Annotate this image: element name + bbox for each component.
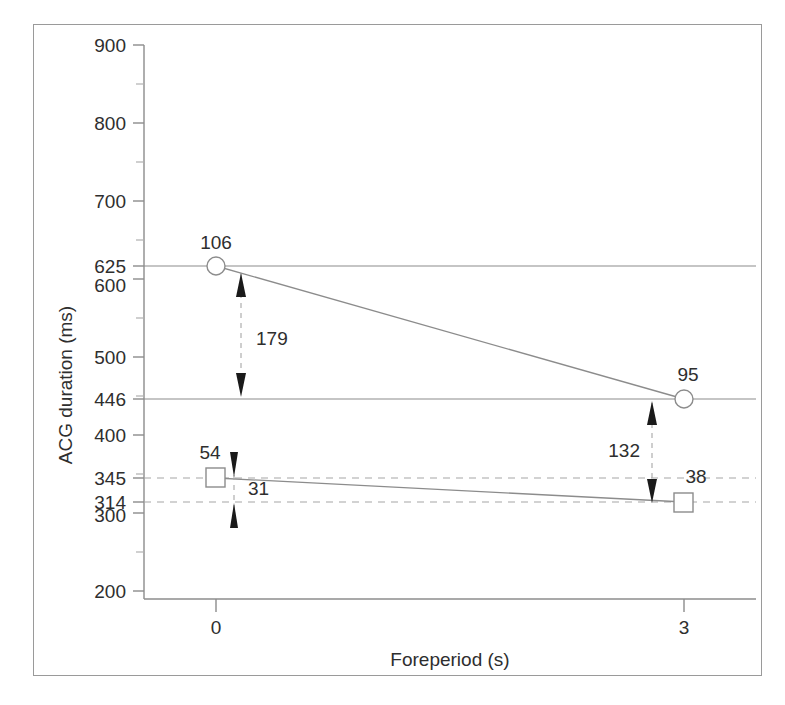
figure-page: 900 800 700 625 600 500 446 400 345 314 … <box>0 0 785 705</box>
ytick-label-300: 300 <box>94 505 126 526</box>
series-line-square <box>216 478 684 502</box>
ytick-label-800: 800 <box>94 113 126 134</box>
data-point-circle-3 <box>675 390 693 408</box>
ytick-label-600: 600 <box>94 275 126 296</box>
ytick-label-700: 700 <box>94 191 126 212</box>
annotation-132-arrowhead-bottom <box>647 479 657 503</box>
acg-duration-chart: 900 800 700 625 600 500 446 400 345 314 … <box>34 25 761 675</box>
annotation-179-arrowhead-top <box>236 273 246 297</box>
point-label-circle-3: 95 <box>677 364 698 385</box>
y-tick-labels: 900 800 700 625 600 500 446 400 345 314 … <box>94 35 126 602</box>
reference-lines <box>144 266 756 502</box>
annotation-132-arrowhead-top <box>647 401 657 425</box>
annotation-179-label: 179 <box>256 328 288 349</box>
x-axis-title: Foreperiod (s) <box>390 649 509 670</box>
point-label-circle-0: 106 <box>200 232 232 253</box>
data-point-circle-0 <box>207 257 225 275</box>
xtick-label-3: 3 <box>679 617 690 638</box>
ytick-label-900: 900 <box>94 35 126 56</box>
ytick-label-446: 446 <box>94 389 126 410</box>
data-point-square-0 <box>206 468 225 487</box>
annotation-179-arrowhead-bottom <box>236 373 246 397</box>
annotation-31-label: 31 <box>248 478 269 499</box>
annotation-132: 132 <box>608 401 657 503</box>
y-axis-title: ACG duration (ms) <box>55 306 76 464</box>
figure-frame: 900 800 700 625 600 500 446 400 345 314 … <box>33 24 762 676</box>
ytick-label-345: 345 <box>94 468 126 489</box>
point-label-square-3: 38 <box>685 466 706 487</box>
x-tick-labels: 0 3 <box>211 617 690 638</box>
ytick-label-400: 400 <box>94 425 126 446</box>
x-ticks <box>216 599 684 612</box>
ytick-label-625: 625 <box>94 256 126 277</box>
annotation-31-arrowhead-top <box>230 452 238 477</box>
ytick-label-200: 200 <box>94 581 126 602</box>
point-label-square-0: 54 <box>199 442 221 463</box>
annotation-31: 31 <box>230 452 269 528</box>
ytick-label-500: 500 <box>94 347 126 368</box>
annotation-31-arrowhead-bottom <box>230 503 238 528</box>
annotation-179: 179 <box>236 273 288 397</box>
y-minor-ticks <box>136 84 144 552</box>
annotation-132-label: 132 <box>608 440 640 461</box>
xtick-label-0: 0 <box>211 617 222 638</box>
data-point-square-3 <box>674 493 693 512</box>
